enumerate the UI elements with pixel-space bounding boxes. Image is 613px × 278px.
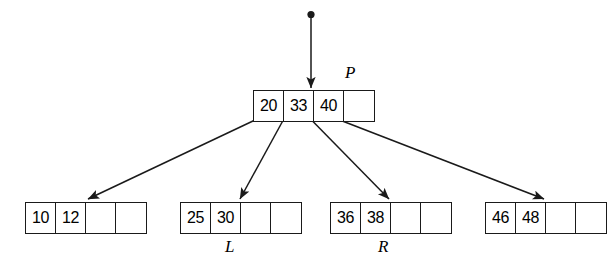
btree-cell[interactable]: 40 [314, 91, 344, 121]
btree-cell-empty[interactable] [546, 203, 576, 233]
btree-cell-empty[interactable] [86, 203, 116, 233]
node-label-l: L [225, 238, 234, 255]
edge-root-to-leaf2 [240, 121, 283, 200]
incoming-pointer-dot [307, 11, 314, 18]
btree-node-leaf1[interactable]: 10 12 [25, 202, 147, 234]
edge-root-to-leaf3 [312, 121, 389, 200]
btree-cell-empty[interactable] [421, 203, 451, 233]
node-label-r: R [378, 238, 388, 255]
btree-node-root[interactable]: 20 33 40 [253, 90, 375, 122]
btree-cell[interactable]: 36 [331, 203, 361, 233]
btree-node-leaf4[interactable]: 46 48 [485, 202, 607, 234]
btree-cell-empty[interactable] [391, 203, 421, 233]
btree-cell[interactable]: 48 [516, 203, 546, 233]
btree-cell[interactable]: 46 [486, 203, 516, 233]
btree-diagram: 20 33 40 P 10 12 25 30 L 36 38 R 46 48 [0, 0, 613, 278]
btree-cell-empty[interactable] [271, 203, 301, 233]
edge-root-to-leaf4 [341, 121, 544, 200]
btree-cell[interactable]: 33 [284, 91, 314, 121]
btree-cell-empty[interactable] [344, 91, 374, 121]
node-label-p: P [345, 64, 355, 81]
edge-layer [0, 0, 613, 278]
btree-cell-empty[interactable] [116, 203, 146, 233]
btree-cell[interactable]: 20 [254, 91, 284, 121]
btree-cell[interactable]: 38 [361, 203, 391, 233]
btree-cell-empty[interactable] [576, 203, 606, 233]
btree-node-leaf3[interactable]: 36 38 [330, 202, 452, 234]
btree-cell[interactable]: 30 [211, 203, 241, 233]
btree-node-leaf2[interactable]: 25 30 [180, 202, 302, 234]
edge-root-to-leaf1 [88, 121, 254, 200]
btree-cell[interactable]: 25 [181, 203, 211, 233]
btree-cell-empty[interactable] [241, 203, 271, 233]
btree-cell[interactable]: 12 [56, 203, 86, 233]
btree-cell[interactable]: 10 [26, 203, 56, 233]
